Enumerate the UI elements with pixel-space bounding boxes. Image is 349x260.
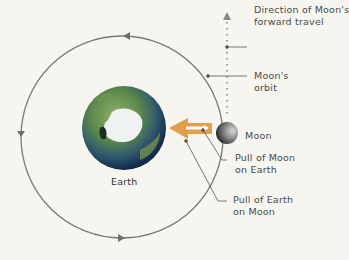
pull-earth-on-moon-label: Pull of Earth on Moon [233, 194, 293, 218]
forward-travel-line [223, 12, 231, 118]
orbit-arrow-bottom-icon [118, 234, 125, 242]
orbit-label-line2: orbit [254, 82, 289, 94]
pull-moon-on-earth-label: Pull of Moon on Earth [235, 152, 295, 176]
pull-earth-line1: Pull of Earth [233, 194, 293, 206]
pull-moon-line2: on Earth [235, 164, 295, 176]
orbit-label: Moon's orbit [254, 70, 289, 94]
earth-label: Earth [111, 176, 137, 188]
up-arrow-icon [223, 12, 231, 20]
pull-moon-line1: Pull of Moon [235, 152, 295, 164]
orbit-label-line1: Moon's [254, 70, 289, 82]
earth [82, 86, 166, 170]
pull-earth-line2: on Moon [233, 206, 293, 218]
direction-label-line1: Direction of Moon's [254, 4, 349, 16]
moon-label: Moon [245, 130, 272, 142]
direction-label: Direction of Moon's forward travel [254, 4, 349, 28]
moon [216, 122, 238, 144]
orbit-arrow-left-icon [17, 131, 25, 137]
direction-label-line2: forward travel [254, 16, 349, 28]
orbit-arrow-top-icon [123, 32, 130, 40]
